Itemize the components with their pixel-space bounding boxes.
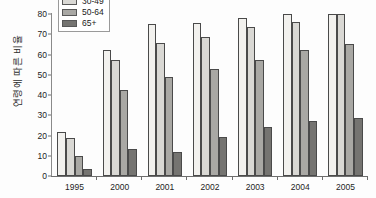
y-tick-mark <box>48 54 51 55</box>
bar[interactable] <box>66 138 75 176</box>
bar-group <box>328 14 362 176</box>
x-tick-label: 2005 <box>336 182 355 192</box>
bar[interactable] <box>300 50 309 176</box>
bar[interactable] <box>120 90 129 176</box>
y-tick-label: 60 <box>17 50 51 60</box>
bar-group <box>193 14 227 176</box>
x-axis-line <box>51 176 368 177</box>
y-tick-mark <box>48 115 51 116</box>
y-tick-label: 40 <box>17 90 51 100</box>
bar[interactable] <box>255 60 264 176</box>
bar-group-bars <box>57 14 91 176</box>
y-tick-mark <box>48 74 51 75</box>
bar[interactable] <box>283 14 292 176</box>
y-tick-label: 10 <box>17 151 51 161</box>
bar[interactable] <box>173 152 182 176</box>
x-tick-label: 2002 <box>201 182 220 192</box>
y-tick-label: 20 <box>17 131 51 141</box>
bar-group <box>57 14 91 176</box>
legend-items: 30-4950-6465+ <box>62 0 104 28</box>
x-tick-label: 2000 <box>110 182 129 192</box>
x-tick-mark <box>186 177 187 180</box>
bar[interactable] <box>238 18 247 176</box>
legend-item[interactable]: 50-64 <box>62 7 104 17</box>
y-tick-label: 30 <box>17 110 51 120</box>
bar-group <box>103 14 137 176</box>
x-tick-mark <box>322 177 323 180</box>
bar-group-bars <box>148 14 182 176</box>
legend-swatch-icon <box>62 9 77 16</box>
bar[interactable] <box>193 23 202 176</box>
bar-chart: 연령에 따른 비율 01020304050607080 199520002001… <box>0 0 376 198</box>
bar[interactable] <box>148 24 157 176</box>
y-tick-mark <box>48 135 51 136</box>
x-tick-mark <box>141 177 142 180</box>
y-tick-mark <box>48 34 51 35</box>
x-tick-label: 2004 <box>291 182 310 192</box>
x-tick-mark <box>232 177 233 180</box>
bar[interactable] <box>309 121 318 176</box>
bar[interactable] <box>57 132 66 176</box>
bar-group-bars <box>328 14 362 176</box>
bar[interactable] <box>292 22 301 176</box>
x-tick-mark <box>367 177 368 180</box>
bar-group-bars <box>238 14 272 176</box>
x-tick-mark <box>96 177 97 180</box>
legend-item[interactable]: 30-49 <box>62 0 104 6</box>
bar[interactable] <box>345 44 354 176</box>
bar[interactable] <box>103 50 112 176</box>
bar-group-bars <box>283 14 317 176</box>
bar[interactable] <box>354 118 363 176</box>
plot-area: 01020304050607080 <box>51 14 367 176</box>
x-tick-label: 1995 <box>65 182 84 192</box>
legend-item[interactable]: 65+ <box>62 18 104 28</box>
legend-item-label: 50-64 <box>82 8 104 17</box>
bar[interactable] <box>328 14 337 176</box>
bar[interactable] <box>165 77 174 176</box>
legend-swatch-icon <box>62 20 77 27</box>
bar-group-bars <box>193 14 227 176</box>
bar[interactable] <box>75 156 84 176</box>
y-tick-mark <box>48 155 51 156</box>
y-tick-label: 80 <box>17 9 51 19</box>
bar[interactable] <box>156 43 165 176</box>
legend-item-label: 30-49 <box>82 0 104 6</box>
y-tick-label: 70 <box>17 29 51 39</box>
bar[interactable] <box>247 27 256 176</box>
y-tick-mark <box>48 14 51 15</box>
x-tick-label: 2003 <box>246 182 265 192</box>
y-tick-mark <box>48 95 51 96</box>
bar-group <box>238 14 272 176</box>
bar[interactable] <box>337 14 346 176</box>
bar-group <box>148 14 182 176</box>
bar-group-bars <box>103 14 137 176</box>
x-tick-mark <box>277 177 278 180</box>
x-tick-label: 2001 <box>155 182 174 192</box>
legend-item-label: 65+ <box>82 19 96 28</box>
bar[interactable] <box>210 69 219 176</box>
y-tick-label: 0 <box>17 171 51 181</box>
legend-swatch-icon <box>62 0 77 5</box>
bar[interactable] <box>201 37 210 176</box>
bar[interactable] <box>128 149 137 176</box>
bar-group <box>283 14 317 176</box>
y-tick-mark <box>48 176 51 177</box>
bar[interactable] <box>111 60 120 176</box>
bar[interactable] <box>83 169 92 176</box>
legend: 30-4950-6465+ <box>58 0 110 32</box>
bar[interactable] <box>219 137 228 176</box>
bar[interactable] <box>264 127 273 176</box>
y-tick-label: 50 <box>17 70 51 80</box>
